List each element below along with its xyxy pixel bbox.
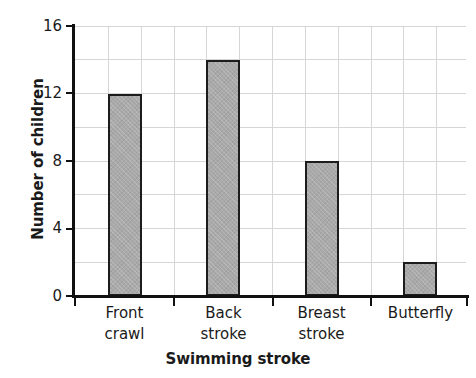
plot-area	[75, 26, 466, 296]
gridline-v-10	[403, 26, 404, 296]
bar-chart: Number of children 16 12 8 4 0	[0, 0, 476, 378]
gridline-v-6	[272, 26, 273, 296]
bar-front-crawl[interactable]	[108, 94, 142, 297]
x-category-label-back-stroke: Back stroke	[174, 303, 273, 345]
x-category-label-front-crawl: Front crawl	[75, 303, 174, 345]
x-category-label-line-1: Butterfly	[371, 303, 470, 324]
x-axis-line	[72, 295, 469, 298]
y-tick-16	[66, 25, 75, 27]
x-category-label-line-2: stroke	[174, 324, 273, 345]
x-category-label-butterfly: Butterfly	[371, 303, 470, 324]
x-category-label-line-1: Front	[75, 303, 174, 324]
y-tick-label-4: 4	[8, 221, 62, 236]
gridline-h-14	[75, 59, 466, 60]
gridline-v-3	[174, 26, 175, 296]
y-tick-label-8: 8	[8, 154, 62, 169]
bar-back-stroke[interactable]	[206, 60, 240, 296]
y-axis-tick-labels: 16 12 8 4 0	[0, 0, 62, 378]
y-tick-0	[66, 295, 75, 297]
gridline-v-9	[371, 26, 372, 296]
x-category-label-line-1: Back	[174, 303, 273, 324]
y-tick-12	[66, 92, 75, 94]
x-category-label-breast-stroke: Breast stroke	[272, 303, 371, 345]
x-category-label-line-2: stroke	[272, 324, 371, 345]
gridline-v-11	[436, 26, 437, 296]
y-tick-label-0: 0	[8, 289, 62, 304]
gridline-h-16	[75, 26, 466, 27]
bar-breast-stroke[interactable]	[305, 161, 339, 296]
x-axis-title: Swimming stroke	[0, 350, 476, 368]
bar-butterfly[interactable]	[403, 262, 437, 296]
y-tick-label-16: 16	[8, 19, 62, 34]
x-category-label-line-1: Breast	[272, 303, 371, 324]
y-tick-label-12: 12	[8, 86, 62, 101]
y-tick-8	[66, 160, 75, 162]
x-category-label-line-2: crawl	[75, 324, 174, 345]
y-tick-4	[66, 228, 75, 230]
